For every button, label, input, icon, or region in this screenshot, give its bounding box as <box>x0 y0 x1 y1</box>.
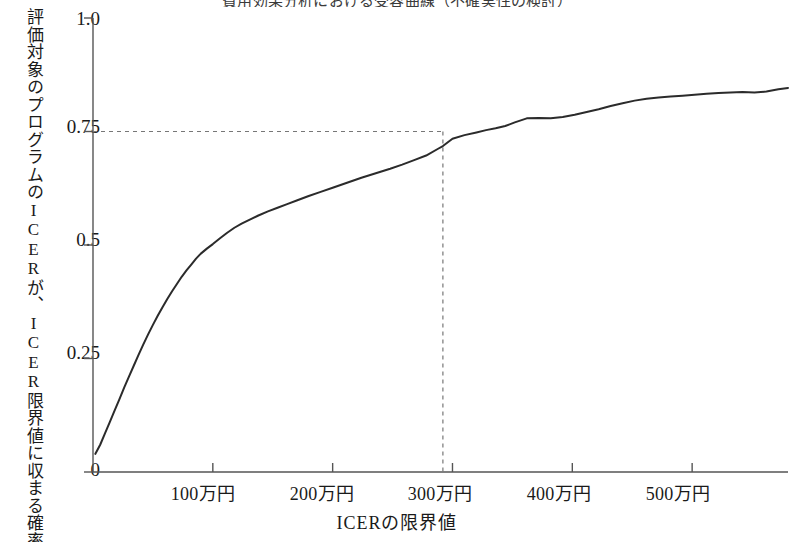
x-tick-marks <box>213 463 692 472</box>
plot-canvas <box>0 0 794 542</box>
threshold-guide-lines <box>93 132 443 473</box>
acceptability-curve-figure: 費用効果分析における受容曲線（不確実性の検討） 評価対象のプログラムのICERが… <box>0 0 794 542</box>
y-tick-marks <box>84 18 93 472</box>
axis-group <box>93 18 788 472</box>
acceptability-curve-line <box>95 88 788 454</box>
